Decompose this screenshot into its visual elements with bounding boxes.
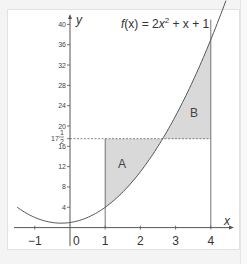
y-axis-label: y: [75, 13, 83, 27]
y-tick-label: 40: [58, 21, 66, 28]
x-tick-label: −1: [28, 234, 42, 248]
region-a: [105, 139, 162, 208]
y-axis-arrow: [68, 14, 72, 19]
shade-layer: [105, 40, 211, 208]
special-y-whole: 17: [51, 135, 59, 142]
region-b: [163, 40, 211, 139]
region-a-label: A: [118, 157, 126, 171]
y-tick-label: 4: [62, 204, 66, 211]
function-label: f(x) = 2x2 + x + 1: [121, 16, 209, 31]
special-y-den: 2: [60, 138, 64, 145]
special-y-num: 1: [60, 129, 64, 136]
x-axis-label: x: [223, 214, 231, 228]
y-tick-label: 12: [58, 163, 66, 170]
y-tick-label: 36: [58, 41, 66, 48]
chart-svg: −101234481216202428323640 y x f(x) = 2x2…: [0, 0, 247, 264]
x-tick-label: 1: [102, 234, 109, 248]
x-tick-label: 0: [73, 234, 80, 248]
region-b-label: B: [190, 106, 198, 120]
y-tick-label: 24: [58, 102, 66, 109]
x-tick-label: 3: [172, 234, 179, 248]
y-tick-label: 28: [58, 82, 66, 89]
y-tick-label: 8: [62, 183, 66, 190]
x-tick-label: 4: [207, 234, 214, 248]
function-label-mid: (x) = 2: [124, 17, 159, 31]
x-tick-label: 2: [137, 234, 144, 248]
function-label-rest: + x + 1: [169, 17, 209, 31]
y-tick-label: 32: [58, 62, 66, 69]
